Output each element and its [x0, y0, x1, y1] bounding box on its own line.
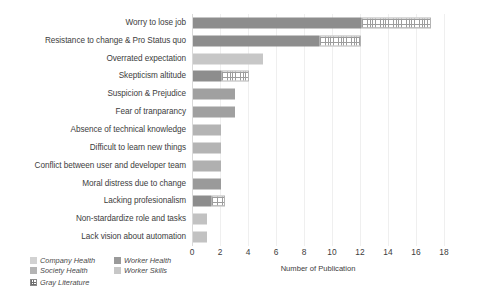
category-label: Non-stardardize role and tasks [76, 215, 186, 223]
plot-area: Worry to lose jobResistance to change & … [192, 14, 444, 246]
legend-item[interactable]: Company Health [30, 256, 104, 265]
legend-swatch-icon [30, 279, 37, 286]
legend-swatch-icon [114, 267, 121, 274]
stacked-bar [193, 124, 221, 135]
stacked-bar [193, 214, 207, 225]
legend-label: Society Health [40, 266, 88, 275]
x-tick-label: 16 [411, 248, 420, 256]
stacked-bar [193, 71, 249, 82]
category-label: Lack vision about automation [81, 233, 186, 241]
legend-item[interactable]: Worker Skills [114, 266, 180, 275]
bar-segment-primary [193, 160, 221, 171]
bar-segment-primary [193, 17, 361, 28]
bar-segment-primary [193, 89, 235, 100]
bar-segment-primary [193, 196, 211, 207]
bar-row: Suspicion & Prejudice [192, 85, 444, 103]
bar-segment-gray-literature [361, 17, 431, 28]
stacked-bar [193, 89, 235, 100]
x-tick-label: 0 [190, 248, 195, 256]
category-label: Suspicion & Prejudice [107, 90, 186, 98]
stacked-bar [193, 196, 225, 207]
category-label: Skepticism altitude [119, 72, 186, 80]
bar-segment-primary [193, 53, 263, 64]
bar-row: Worry to lose job [192, 14, 444, 32]
bar-rows: Worry to lose jobResistance to change & … [192, 14, 444, 246]
stacked-bar [193, 160, 221, 171]
bar-segment-primary [193, 107, 235, 118]
x-axis-title: Number of Publication [192, 264, 444, 273]
bar-segment-primary [193, 124, 221, 135]
legend-item[interactable]: Society Health [30, 266, 104, 275]
bar-row: Resistance to change & Pro Status quo [192, 32, 444, 50]
legend-item[interactable]: Gray Literature [30, 278, 180, 287]
legend-label: Worker Skills [124, 266, 167, 275]
bar-row: Moral distress due to change [192, 175, 444, 193]
stacked-bar [193, 142, 221, 153]
category-label: Resistance to change & Pro Status quo [45, 37, 186, 45]
x-tick-label: 4 [246, 248, 251, 256]
bar-row: Conflict between user and developer team [192, 157, 444, 175]
category-label: Worry to lose job [126, 19, 186, 27]
bar-segment-primary [193, 178, 221, 189]
legend-swatch-icon [114, 257, 121, 264]
x-axis-ticks: 024681012141618 [192, 248, 444, 262]
stacked-bar [193, 53, 263, 64]
x-tick-label: 8 [302, 248, 307, 256]
bar-row: Lack vision about automation [192, 228, 444, 246]
bar-segment-gray-literature [319, 35, 361, 46]
legend-label: Gray Literature [40, 278, 89, 287]
category-label: Difficult to learn new things [90, 144, 186, 152]
stacked-bar [193, 17, 431, 28]
category-label: Conflict between user and developer team [35, 162, 186, 170]
horizontal-bar-chart: Worry to lose jobResistance to change & … [0, 0, 482, 303]
legend-gray-literature: Gray Literature [30, 278, 180, 287]
bar-row: Difficult to learn new things [192, 139, 444, 157]
legend-swatch-icon [30, 257, 37, 264]
bar-row: Skepticism altitude [192, 68, 444, 86]
x-tick-label: 12 [355, 248, 364, 256]
stacked-bar [193, 107, 235, 118]
bar-segment-primary [193, 232, 207, 243]
stacked-bar [193, 35, 361, 46]
bar-segment-gray-literature [221, 71, 249, 82]
bar-row: Overrated expectation [192, 50, 444, 68]
x-tick-label: 14 [383, 248, 392, 256]
x-tick-label: 18 [439, 248, 448, 256]
bar-segment-primary [193, 71, 221, 82]
bar-row: Non-stardardize role and tasks [192, 210, 444, 228]
category-label: Absence of technical knowledge [71, 126, 186, 134]
x-tick-label: 6 [274, 248, 279, 256]
category-label: Moral distress due to change [82, 179, 186, 187]
category-label: Fear of tranparancy [116, 108, 187, 116]
bar-row: Lacking profesionalism [192, 192, 444, 210]
x-tick-label: 2 [218, 248, 223, 256]
legend-grid: Company HealthWorker HealthSociety Healt… [30, 256, 180, 276]
category-label: Overrated expectation [106, 54, 186, 62]
stacked-bar [193, 178, 221, 189]
legend-label: Worker Health [124, 256, 171, 265]
x-tick-label: 10 [327, 248, 336, 256]
bar-row: Fear of tranparancy [192, 103, 444, 121]
stacked-bar [193, 232, 207, 243]
bar-segment-primary [193, 214, 207, 225]
legend-label: Company Health [40, 256, 95, 265]
bar-segment-gray-literature [211, 196, 225, 207]
legend: Company HealthWorker HealthSociety Healt… [30, 256, 180, 287]
bar-segment-primary [193, 142, 221, 153]
category-label: Lacking profesionalism [104, 197, 186, 205]
legend-item[interactable]: Worker Health [114, 256, 180, 265]
gridline [444, 14, 445, 246]
bar-segment-primary [193, 35, 319, 46]
bar-row: Absence of technical knowledge [192, 121, 444, 139]
legend-swatch-icon [30, 267, 37, 274]
